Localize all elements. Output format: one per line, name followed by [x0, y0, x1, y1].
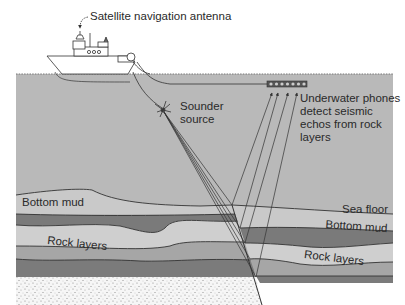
antenna-pointer	[80, 17, 88, 28]
sea-floor-label: Sea floor	[342, 203, 388, 216]
bottom-mud-left-label: Bottom mud	[22, 196, 84, 209]
sounder-source-label: Sounder source	[180, 100, 223, 126]
antenna-label: Satellite navigation antenna	[90, 10, 231, 23]
hydrophone-array	[267, 81, 307, 87]
survey-ship	[47, 31, 150, 74]
underwater-phones-label: Underwater phones detect seismic echos f…	[300, 92, 400, 144]
